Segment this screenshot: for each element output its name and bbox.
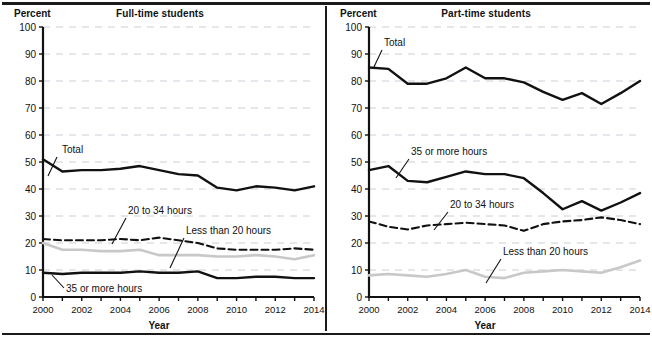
y-tick-label-100: 100 xyxy=(345,22,362,33)
y-tick-label-100: 100 xyxy=(19,22,36,33)
y-tick-label-60: 60 xyxy=(351,130,363,141)
panel-full-time: Percent Full-time students 0102030405060… xyxy=(0,0,326,341)
annotation-label-less-than-20-hours: Less than 20 hours xyxy=(503,246,588,257)
annotation-label-less-than-20-hours: Less than 20 hours xyxy=(186,225,271,236)
y-tick-label-30: 30 xyxy=(25,211,37,222)
series-line-total xyxy=(369,68,640,104)
x-tick-label-2008: 2008 xyxy=(187,304,208,315)
y-tick-label-50: 50 xyxy=(351,157,363,168)
series-line-total xyxy=(43,159,314,190)
y-tick-label-60: 60 xyxy=(25,130,37,141)
y-tick-label-10: 10 xyxy=(351,265,363,276)
x-tick-label-2010: 2010 xyxy=(226,304,247,315)
x-tick-label-2006: 2006 xyxy=(475,304,496,315)
y-tick-label-80: 80 xyxy=(351,76,363,87)
annotation-leader-total xyxy=(373,50,382,69)
series-line-less-than-20-hours xyxy=(43,243,314,259)
x-tick-label-2012: 2012 xyxy=(265,304,286,315)
y-tick-label-40: 40 xyxy=(351,184,363,195)
x-tick-label-2014: 2014 xyxy=(629,304,650,315)
y-tick-label-90: 90 xyxy=(351,49,363,60)
y-tick-label-70: 70 xyxy=(25,103,37,114)
x-axis-title-left: Year xyxy=(0,320,326,331)
y-tick-label-40: 40 xyxy=(25,184,37,195)
x-axis-title-right: Year xyxy=(326,320,652,331)
y-tick-label-20: 20 xyxy=(25,238,37,249)
figure-root: Percent Full-time students 0102030405060… xyxy=(0,0,652,341)
plot-area-part-time: 0102030405060708090100200020022004200620… xyxy=(326,0,652,341)
y-tick-label-30: 30 xyxy=(351,211,363,222)
y-tick-label-10: 10 xyxy=(25,265,37,276)
x-tick-label-2008: 2008 xyxy=(513,304,534,315)
x-tick-label-2000: 2000 xyxy=(358,304,379,315)
series-line-less-than-20-hours xyxy=(369,261,640,279)
x-tick-label-2012: 2012 xyxy=(591,304,612,315)
annotation-label-20-to-34-hours: 20 to 34 hours xyxy=(128,205,192,216)
annotation-leader-20-to-34-hours xyxy=(434,212,448,230)
x-tick-label-2004: 2004 xyxy=(110,304,131,315)
y-tick-label-80: 80 xyxy=(25,76,37,87)
y-tick-label-0: 0 xyxy=(30,292,36,303)
y-tick-label-70: 70 xyxy=(351,103,363,114)
y-tick-label-20: 20 xyxy=(351,238,363,249)
x-tick-label-2014: 2014 xyxy=(303,304,324,315)
annotation-label-20-to-34-hours: 20 to 34 hours xyxy=(450,199,514,210)
y-tick-label-50: 50 xyxy=(25,157,37,168)
panel-part-time: Percent Part-time students 0102030405060… xyxy=(326,0,652,341)
annotation-label-35-or-more-hours: 35 or more hours xyxy=(411,146,487,157)
x-tick-label-2006: 2006 xyxy=(149,304,170,315)
y-tick-label-0: 0 xyxy=(356,292,362,303)
annotation-leader-less-than-20-hours xyxy=(486,259,501,283)
annotation-label-total: Total xyxy=(62,144,83,155)
x-tick-label-2004: 2004 xyxy=(436,304,457,315)
annotation-label-35-or-more-hours: 35 or more hours xyxy=(66,283,142,294)
plot-area-full-time: 0102030405060708090100200020022004200620… xyxy=(0,0,326,341)
annotation-leader-35-or-more-hours xyxy=(52,275,64,288)
x-tick-label-2000: 2000 xyxy=(32,304,53,315)
x-tick-label-2002: 2002 xyxy=(397,304,418,315)
x-tick-label-2002: 2002 xyxy=(71,304,92,315)
series-line-35-or-more-hours xyxy=(43,271,314,278)
y-tick-label-90: 90 xyxy=(25,49,37,60)
series-line-20-to-34-hours xyxy=(369,217,640,231)
annotation-label-total: Total xyxy=(384,37,405,48)
series-line-20-to-34-hours xyxy=(43,238,314,250)
x-tick-label-2010: 2010 xyxy=(552,304,573,315)
